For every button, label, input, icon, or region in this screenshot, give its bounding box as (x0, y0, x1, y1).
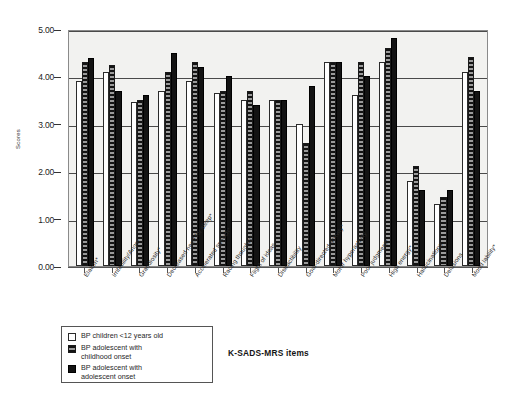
legend-item: BP adolescent with adolescent onset (68, 364, 206, 381)
y-tick-mark (54, 77, 61, 78)
bar (391, 38, 397, 266)
y-tick-mark (54, 124, 61, 125)
legend-item-label: BP adolescent with adolescent onset (81, 364, 142, 381)
bar-group (71, 31, 99, 266)
hatched-square-swatch (68, 345, 76, 353)
y-tick-mark (54, 267, 61, 268)
legend: BP children <12 years oldBP adolescent w… (61, 326, 213, 383)
y-tick-label: 2.00 (20, 167, 54, 177)
y-tick-mark (54, 30, 61, 31)
y-tick-label: 1.00 (20, 215, 54, 225)
bar (419, 190, 425, 266)
open-square-swatch (68, 333, 76, 341)
legend-item: BP adolescent with childhood onset (68, 344, 206, 361)
y-tick: 0.00 (14, 262, 54, 272)
bar-group (375, 31, 403, 266)
bar-groups (69, 31, 487, 266)
solid-square-swatch (68, 365, 76, 373)
y-tick-mark (54, 172, 61, 173)
legend-item-label: BP adolescent with childhood onset (81, 344, 142, 361)
bar-group (264, 31, 292, 266)
y-tick-mark (54, 219, 61, 220)
bar (143, 95, 149, 266)
y-tick-label: 4.00 (20, 72, 54, 82)
legend-item-label: BP children <12 years old (81, 332, 163, 341)
bar (253, 105, 259, 266)
bar (171, 53, 177, 266)
bar (88, 58, 94, 266)
y-tick: 3.00 (14, 120, 54, 130)
y-tick: 2.00 (14, 167, 54, 177)
bar-group (292, 31, 320, 266)
y-tick: 1.00 (14, 215, 54, 225)
y-tick: 4.00 (14, 72, 54, 82)
y-tick-label: 3.00 (20, 120, 54, 130)
y-tick-label: 5.00 (20, 25, 54, 35)
bar-group (457, 31, 485, 266)
bar (309, 86, 315, 266)
bar-group (126, 31, 154, 266)
bar-group (237, 31, 265, 266)
bar (115, 91, 121, 266)
bar-group (99, 31, 127, 266)
bar (447, 190, 453, 266)
bar-group (402, 31, 430, 266)
bar (281, 100, 287, 266)
y-tick: 5.00 (14, 25, 54, 35)
x-axis-title: K-SADS-MRS items (228, 348, 309, 358)
bar-group (154, 31, 182, 266)
bar (474, 91, 480, 266)
legend-item: BP children <12 years old (68, 332, 206, 341)
plot-area (68, 30, 488, 267)
bar-chart-figure: Scores 0.001.002.003.004.005.00 Elation*… (0, 0, 508, 407)
bar-group (430, 31, 458, 266)
y-axis-title: Scores (15, 109, 21, 169)
y-tick-label: 0.00 (20, 262, 54, 272)
